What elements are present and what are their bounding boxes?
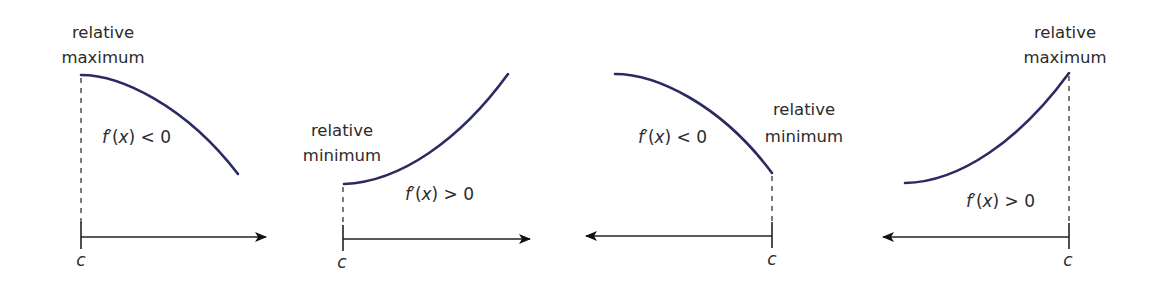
- derivative-condition: f′(x) < 0: [638, 127, 707, 147]
- function-curve: [81, 75, 238, 174]
- endpoint-extrema-diagram: relative maximum f′(x) < 0 c relative mi…: [0, 0, 1164, 289]
- extremum-label-line2: minimum: [765, 127, 843, 146]
- extremum-label-line1: relative: [72, 23, 134, 42]
- panel-2: relative minimum f′(x) > 0 c: [303, 74, 530, 272]
- point-c-label: c: [1063, 250, 1073, 270]
- derivative-condition: f′(x) < 0: [102, 127, 171, 147]
- point-c-label: c: [337, 252, 347, 272]
- derivative-condition: f′(x) > 0: [405, 184, 474, 204]
- extremum-label-line2: maximum: [61, 48, 144, 67]
- extremum-label-line1: relative: [773, 100, 835, 119]
- extremum-label-line1: relative: [311, 121, 373, 140]
- extremum-label-line2: maximum: [1023, 48, 1106, 67]
- extremum-label-line1: relative: [1034, 23, 1096, 42]
- point-c-label: c: [76, 250, 86, 270]
- point-c-label: c: [767, 249, 777, 269]
- function-curve: [615, 74, 772, 173]
- panel-3: relative minimum f′(x) < 0 c: [586, 74, 843, 269]
- panel-1: relative maximum f′(x) < 0 c: [61, 23, 266, 270]
- extremum-label-line2: minimum: [303, 146, 381, 165]
- function-curve: [905, 73, 1069, 183]
- panel-4: relative maximum f′(x) > 0 c: [883, 23, 1107, 270]
- derivative-condition: f′(x) > 0: [966, 191, 1035, 211]
